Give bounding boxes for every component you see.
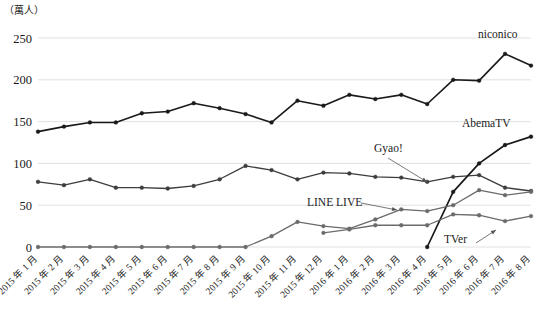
data-point — [529, 64, 533, 68]
series-label-line-live: LINE LIVE — [307, 196, 362, 208]
y-axis-tick-label: 250 — [13, 32, 32, 46]
data-point — [218, 177, 222, 181]
data-point — [477, 173, 481, 177]
y-axis-tick-label: 100 — [13, 157, 32, 171]
data-point — [88, 177, 92, 181]
series-annotations-group: niconicoAbemaTVGyao!LINE LIVETVer — [307, 28, 518, 245]
data-point — [322, 171, 326, 175]
data-point — [36, 180, 40, 184]
y-axis-tick-label: 50 — [20, 199, 33, 213]
x-axis-tick-labels: 2015 年 1 月2015 年 2 月2015 年 3 月2015 年 4 月… — [0, 253, 532, 300]
data-point — [296, 177, 300, 181]
data-point — [88, 245, 92, 249]
data-point — [322, 224, 326, 228]
data-point — [62, 183, 66, 187]
y-axis-tick-labels: 050100150200250 — [13, 32, 32, 255]
data-point — [140, 245, 144, 249]
series-tver — [322, 213, 533, 235]
series-gyao- — [36, 164, 533, 193]
data-point — [347, 93, 351, 97]
data-point — [373, 223, 377, 227]
data-point — [529, 190, 533, 194]
data-point — [425, 209, 429, 213]
data-point — [270, 168, 274, 172]
data-point — [166, 110, 170, 114]
series-label-abematv: AbemaTV — [462, 117, 511, 129]
data-point — [114, 121, 118, 125]
y-axis-tick-label: 0 — [26, 241, 32, 255]
data-point — [503, 143, 507, 147]
data-point — [503, 219, 507, 223]
data-point — [218, 106, 222, 110]
data-point — [425, 223, 429, 227]
data-point — [529, 214, 533, 218]
annotation-arrowhead-tver — [491, 230, 496, 234]
data-point — [36, 130, 40, 134]
data-point — [347, 172, 351, 176]
data-point — [322, 231, 326, 235]
data-point — [270, 121, 274, 125]
data-point — [192, 245, 196, 249]
data-point — [296, 99, 300, 103]
data-point — [373, 175, 377, 179]
data-point — [451, 203, 455, 207]
series-label-tver: TVer — [444, 233, 467, 245]
y-axis-tick-label: 200 — [13, 73, 32, 87]
data-point — [218, 245, 222, 249]
data-point — [451, 78, 455, 82]
data-point — [244, 112, 248, 116]
data-point — [451, 190, 455, 194]
data-point — [503, 193, 507, 197]
annotation-arrowhead-line-live — [392, 207, 397, 211]
data-point — [166, 245, 170, 249]
data-point — [296, 220, 300, 224]
data-point — [36, 245, 40, 249]
data-point — [347, 228, 351, 232]
data-point — [451, 175, 455, 179]
data-point — [62, 125, 66, 129]
data-point — [140, 111, 144, 115]
line-chart-plot: 050100150200250 niconicoAbemaTVGyao!LINE… — [0, 0, 538, 324]
data-point — [114, 245, 118, 249]
data-point — [529, 135, 533, 139]
data-point — [114, 186, 118, 190]
data-point — [399, 223, 403, 227]
data-point — [62, 245, 66, 249]
data-point — [192, 184, 196, 188]
data-point — [425, 245, 429, 249]
data-point — [477, 188, 481, 192]
data-point — [244, 164, 248, 168]
data-point — [166, 187, 170, 191]
data-point — [477, 79, 481, 83]
gridlines-group — [38, 38, 531, 247]
data-point — [373, 218, 377, 222]
series-line — [38, 54, 531, 132]
data-series-group — [36, 52, 533, 249]
data-point — [244, 245, 248, 249]
annotation-arrow-line-live — [361, 203, 397, 210]
data-point — [451, 213, 455, 217]
chart-container: （萬人） 050100150200250 niconicoAbemaTVGyao… — [0, 0, 538, 324]
data-point — [322, 104, 326, 108]
data-point — [399, 93, 403, 97]
data-point — [88, 121, 92, 125]
data-point — [270, 234, 274, 238]
data-point — [477, 162, 481, 166]
series-label-gyao: Gyao! — [374, 142, 403, 155]
y-axis-tick-label: 150 — [13, 115, 32, 129]
data-point — [399, 176, 403, 180]
data-point — [503, 186, 507, 190]
data-point — [425, 102, 429, 106]
data-point — [399, 207, 403, 211]
data-point — [140, 186, 144, 190]
data-point — [477, 213, 481, 217]
data-point — [192, 101, 196, 105]
series-label-niconico: niconico — [478, 28, 518, 40]
data-point — [373, 97, 377, 101]
data-point — [503, 52, 507, 56]
